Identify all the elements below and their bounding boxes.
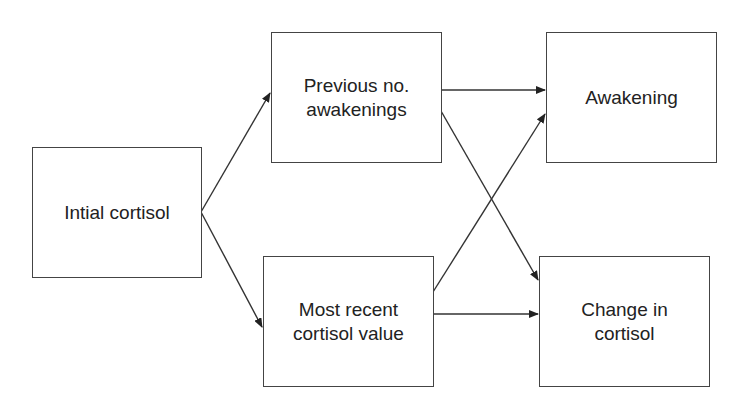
node-label: Most recent cortisol value <box>293 298 404 346</box>
node-previous-awakenings: Previous no. awakenings <box>271 32 442 163</box>
edge-initial-to-recent <box>201 212 262 327</box>
node-most-recent-cortisol: Most recent cortisol value <box>263 256 434 387</box>
edge-recent-to-awakening <box>433 114 545 292</box>
node-label: Previous no. awakenings <box>304 74 410 122</box>
node-label: Awakening <box>585 86 678 110</box>
edge-prev-to-change <box>441 111 538 280</box>
diagram-canvas: Intial cortisol Previous no. awakenings … <box>0 0 738 398</box>
node-initial-cortisol: Intial cortisol <box>32 147 202 278</box>
edge-initial-to-prev <box>201 93 270 212</box>
node-change-in-cortisol: Change in cortisol <box>539 256 710 387</box>
node-label: Intial cortisol <box>64 201 170 225</box>
node-awakening: Awakening <box>546 32 717 163</box>
node-label: Change in cortisol <box>581 298 668 346</box>
